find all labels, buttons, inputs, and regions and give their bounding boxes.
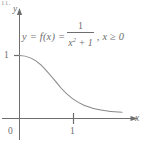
x-tick-label-1: 1 <box>70 126 75 136</box>
equation-left-hand-side: y = f(x) = <box>22 31 65 42</box>
equation-annotation: y = f(x) = 1 x2 + 1 , x ≥ 0 <box>22 22 146 50</box>
x-axis-label: x <box>135 113 139 123</box>
y-axis-arrow-icon <box>17 8 22 15</box>
origin-label: 0 <box>8 126 13 136</box>
denominator-rest: + 1 <box>78 38 92 49</box>
function-graph-figure: 11. y = f(x) = 1 x2 + 1 , x ≥ 0 y x 1 0 … <box>0 0 146 147</box>
y-tick-label-1: 1 <box>4 50 9 60</box>
denominator-exponent: 2 <box>73 36 76 43</box>
function-curve <box>20 56 123 113</box>
fraction-bar <box>67 32 93 33</box>
fraction-denominator: x2 + 1 <box>67 34 93 48</box>
fraction-numerator: 1 <box>76 21 85 31</box>
fraction: 1 x2 + 1 <box>67 21 93 48</box>
y-axis-label: y <box>13 4 17 14</box>
domain-condition: , x ≥ 0 <box>97 31 125 42</box>
